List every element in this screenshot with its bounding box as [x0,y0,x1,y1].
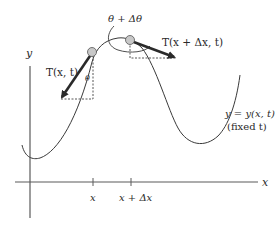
tick-label-x-plus-dx: x + Δx [119,192,153,203]
right-tension-label: T(x + Δx, t) [162,36,223,48]
angle-annotation-label: θ + Δθ [108,13,142,24]
string-curve [22,38,240,159]
right-point [126,36,135,45]
y-axis-label: y [25,47,33,60]
left-tension-label: T(x, t) [46,66,78,78]
string-tension-diagram: x y x x + Δx θ + Δθ T(x, t) θ T(x + Δx, … [0,0,280,229]
x-axis-label: x [262,176,269,189]
tick-label-x: x [90,192,96,203]
curve-note-label: (fixed t) [227,121,267,132]
left-point [88,48,97,57]
curve-equation-label: y = y(x, t) [224,108,275,119]
left-angle-label: θ [85,74,90,83]
